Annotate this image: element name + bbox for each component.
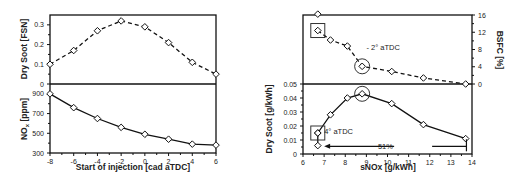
diamond-marker <box>388 68 395 75</box>
series-line <box>50 21 216 74</box>
diamond-marker <box>165 136 172 143</box>
x-tick-label: 8 <box>343 159 347 166</box>
y-tick-label: 0.1 <box>34 61 44 68</box>
x-tick-label: 14 <box>468 159 476 166</box>
y-tick-label: 0.04 <box>283 95 297 102</box>
x-tick-label: 6 <box>214 158 218 165</box>
y-tick-label: 8 <box>478 46 482 53</box>
right-bottom-y-axis-label: Dry Soot [g/kWh] <box>264 84 274 153</box>
y-tick-label: 0 <box>293 151 297 158</box>
y-tick-label: 0.05 <box>283 81 297 88</box>
diamond-marker <box>189 141 196 148</box>
diamond-marker <box>70 104 77 111</box>
series-line <box>50 94 216 145</box>
left-bottom-y-axis-label: NOx [ppm] <box>19 98 30 140</box>
diamond-marker <box>420 75 427 82</box>
x-tick-label: 12 <box>426 159 434 166</box>
diamond-marker <box>47 91 54 98</box>
annotation-4-atdc: 4° aTDC <box>324 127 353 136</box>
right-x-axis-label: sNOx [g/kWh] <box>360 162 416 172</box>
diamond-marker <box>462 81 469 88</box>
y-tick-label: 16 <box>478 12 486 19</box>
right-top-y-axis-label: BSFC [%] <box>495 31 505 70</box>
x-tick-label: 7 <box>322 159 326 166</box>
diamond-marker <box>94 115 101 122</box>
left-x-axis-label: Start of injection [cad aTDC] <box>76 162 190 172</box>
diamond-marker <box>94 27 101 34</box>
diamond-marker <box>47 61 54 68</box>
annotation-minus2-atdc: - 2° aTDC <box>366 43 400 52</box>
y-tick-label: 0.01 <box>283 137 297 144</box>
y-tick-label: 0 <box>40 81 44 88</box>
diamond-marker <box>314 142 321 149</box>
diamond-marker <box>462 135 469 142</box>
series-line <box>318 31 466 84</box>
diamond-marker <box>118 124 125 131</box>
y-tick-label: 12 <box>478 29 486 36</box>
x-tick-label: 4 <box>190 158 194 165</box>
left-chart-panel: -8-6-4-2024600.10.20.3300500700900 <box>32 15 219 165</box>
arrow-head <box>324 144 330 149</box>
y-tick-label: 0.2 <box>34 41 44 48</box>
diamond-marker <box>314 11 321 18</box>
x-tick-label: 13 <box>447 159 455 166</box>
diamond-marker <box>327 37 334 44</box>
y-tick-label: 0.02 <box>283 123 297 130</box>
y-tick-label: 0 <box>478 81 482 88</box>
left-top-y-axis-label: Dry Soot [FSN] <box>19 19 29 80</box>
diamond-marker <box>142 131 149 138</box>
diamond-marker <box>359 63 366 70</box>
y-tick-label: 0.3 <box>34 21 44 28</box>
chart-canvas: -8-6-4-2024600.10.20.3300500700900 67891… <box>0 0 508 192</box>
figure: -8-6-4-2024600.10.20.3300500700900 67891… <box>0 0 508 192</box>
diamond-marker <box>142 24 149 31</box>
diamond-marker <box>213 71 220 78</box>
y-tick-label: 500 <box>32 130 44 137</box>
x-tick-label: 6 <box>301 159 305 166</box>
x-tick-label: -8 <box>47 158 53 165</box>
diamond-marker <box>118 18 125 25</box>
annotation-51-percent: 51% <box>378 142 393 151</box>
y-tick-label: 0.03 <box>283 109 297 116</box>
y-tick-label: 4 <box>478 63 482 70</box>
y-tick-label: 700 <box>32 110 44 117</box>
y-tick-label: 300 <box>32 150 44 157</box>
y-tick-label: 900 <box>32 90 44 97</box>
diamond-marker <box>359 91 366 98</box>
diamond-marker <box>213 142 220 149</box>
